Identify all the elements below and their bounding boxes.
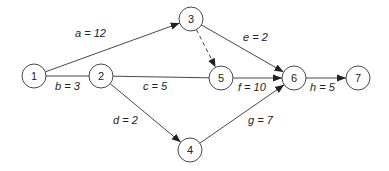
node-1: 1 xyxy=(22,64,46,88)
edge-label-c: c = 5 xyxy=(143,80,168,92)
node-label: 5 xyxy=(218,72,224,84)
edge-label-g: g = 7 xyxy=(248,114,274,126)
node-label: 7 xyxy=(355,72,361,84)
edge-label-e: e = 2 xyxy=(243,31,268,43)
node-label: 2 xyxy=(98,70,104,82)
edge-2-5 xyxy=(113,76,209,78)
edge-label-h: h = 5 xyxy=(310,81,336,93)
node-4: 4 xyxy=(178,138,202,162)
activity-network-diagram: 1234567 a = 12b = 3c = 5d = 2e = 2f = 10… xyxy=(0,0,389,171)
edge-label-d: d = 2 xyxy=(113,114,138,126)
node-label: 1 xyxy=(31,70,37,82)
edge-label-b: b = 3 xyxy=(55,80,81,92)
node-label: 6 xyxy=(291,72,297,84)
node-7: 7 xyxy=(346,66,370,90)
node-5: 5 xyxy=(209,66,233,90)
edge-1-3 xyxy=(45,23,179,72)
node-label: 4 xyxy=(187,144,193,156)
edge-2-4 xyxy=(110,84,181,143)
edge-label-f: f = 10 xyxy=(238,81,267,93)
node-2: 2 xyxy=(89,64,113,88)
node-label: 3 xyxy=(188,13,194,25)
node-6: 6 xyxy=(282,66,306,90)
node-3: 3 xyxy=(179,7,203,31)
edge-label-a: a = 12 xyxy=(75,27,106,39)
edge-3-5-dummy xyxy=(196,30,215,68)
